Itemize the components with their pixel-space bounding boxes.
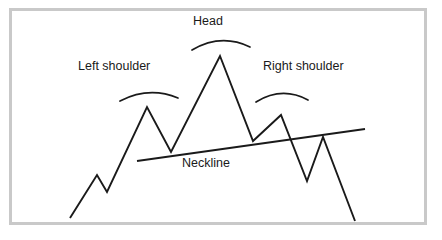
neckline-label: Neckline bbox=[182, 157, 230, 170]
head-label: Head bbox=[193, 15, 223, 28]
head-arc-icon bbox=[192, 41, 250, 50]
right-shoulder-arc-icon bbox=[256, 93, 308, 102]
head-and-shoulders-figure: Left shoulder Head Right shoulder Neckli… bbox=[0, 0, 442, 240]
left-shoulder-arc-icon bbox=[120, 93, 178, 101]
price-path-polyline bbox=[70, 56, 355, 221]
chart-drawing bbox=[0, 0, 442, 240]
left-shoulder-label: Left shoulder bbox=[78, 60, 150, 73]
right-shoulder-label: Right shoulder bbox=[263, 60, 344, 73]
